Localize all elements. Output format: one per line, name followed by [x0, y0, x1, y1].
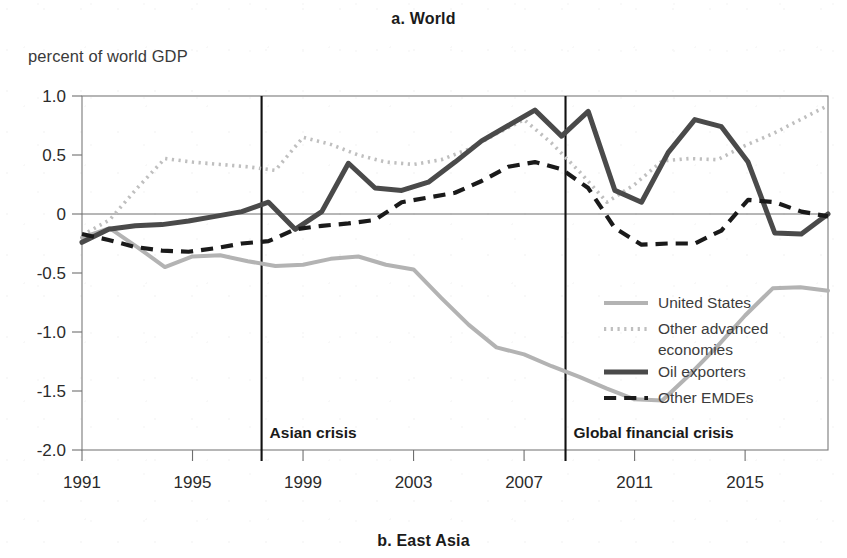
y-tick-label: 0	[57, 205, 66, 224]
legend-label: Oil exporters	[658, 363, 746, 380]
y-tick-label: -1.0	[37, 323, 66, 342]
x-tick-label: 2007	[505, 473, 543, 492]
x-axis-ticks: 1991199519992003200720112015	[63, 450, 764, 492]
legend-label: economies	[658, 341, 733, 358]
y-tick-label: -1.5	[37, 382, 66, 401]
x-tick-label: 2011	[616, 473, 653, 492]
x-tick-label: 2015	[726, 473, 764, 492]
event-label: Global financial crisis	[574, 424, 734, 441]
x-tick-label: 1995	[174, 473, 212, 492]
x-tick-label: 1991	[63, 473, 101, 492]
figure-panel-a-world: a. World percent of world GDP 1.00.50-0.…	[0, 0, 847, 558]
x-tick-label: 2003	[395, 473, 433, 492]
event-label: Asian crisis	[270, 424, 357, 441]
panel-title-bottom: b. East Asia	[0, 532, 847, 550]
line-chart: 1.00.50-0.5-1.0-1.5-2.0 1991199519992003…	[0, 0, 847, 558]
y-axis-ticks: 1.00.50-0.5-1.0-1.5-2.0	[37, 87, 82, 460]
legend-label: United States	[658, 294, 751, 311]
y-tick-label: 0.5	[42, 146, 66, 165]
y-tick-label: -0.5	[37, 264, 66, 283]
x-tick-label: 1999	[284, 473, 322, 492]
panel-title-top: a. World	[0, 10, 847, 28]
y-axis-unit-label: percent of world GDP	[28, 47, 188, 66]
legend-label: Other advanced	[658, 320, 768, 337]
y-tick-label: -2.0	[37, 441, 66, 460]
y-tick-label: 1.0	[42, 87, 66, 106]
legend-label: Other EMDEs	[658, 389, 754, 406]
